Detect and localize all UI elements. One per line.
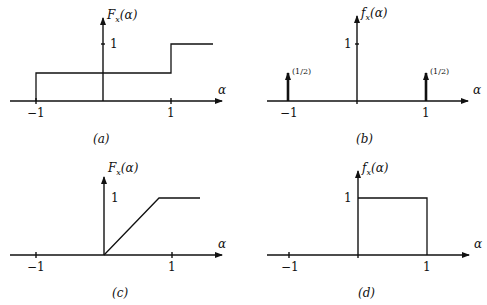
x-tick-label-1: 1 xyxy=(422,106,430,120)
x-axis-label: α xyxy=(474,237,482,251)
x-axis-label: α xyxy=(473,83,481,97)
y-axis-label: Fx(α) xyxy=(107,161,139,177)
y-axis-label: Fx(α) xyxy=(106,8,138,24)
figure: Fx(α) 1 α −1 1 (a) fx(α) 1 (1/2) (1/2) α… xyxy=(0,0,487,305)
x-tick-label-1: 1 xyxy=(167,106,175,120)
x-tick-label-minus1: −1 xyxy=(27,106,45,120)
panel-caption: (c) xyxy=(112,286,128,300)
x-tick-label-1: 1 xyxy=(423,260,431,274)
y-tick-label: 1 xyxy=(344,191,352,205)
x-axis-label: α xyxy=(218,83,226,97)
panel-b: fx(α) 1 (1/2) (1/2) α −1 1 (b) xyxy=(267,6,481,146)
y-tick-label: 1 xyxy=(111,191,119,205)
x-tick-label-minus1: −1 xyxy=(281,260,299,274)
panel-caption: (b) xyxy=(356,132,373,146)
panel-d: fx(α) 1 α −1 1 (d) xyxy=(267,161,482,300)
x-tick-label-1: 1 xyxy=(168,260,176,274)
y-tick-label: 1 xyxy=(344,37,352,51)
pdf-uniform-curve xyxy=(358,198,427,255)
y-tick-label: 1 xyxy=(110,37,118,51)
cdf-step-curve xyxy=(36,44,213,101)
x-tick-label-minus1: −1 xyxy=(280,106,298,120)
impulse-weight-label: (1/2) xyxy=(292,67,311,76)
panel-caption: (d) xyxy=(358,286,375,300)
x-tick-label-minus1: −1 xyxy=(27,260,45,274)
x-axis-label: α xyxy=(218,237,226,251)
cdf-ramp-curve xyxy=(104,198,200,255)
panel-a: Fx(α) 1 α −1 1 (a) xyxy=(10,8,226,146)
y-axis-label: fx(α) xyxy=(361,161,389,177)
panel-caption: (a) xyxy=(93,132,110,146)
panel-c: Fx(α) 1 α −1 1 (c) xyxy=(10,161,226,300)
impulse-weight-label: (1/2) xyxy=(430,67,449,76)
y-axis-label: fx(α) xyxy=(360,6,388,22)
